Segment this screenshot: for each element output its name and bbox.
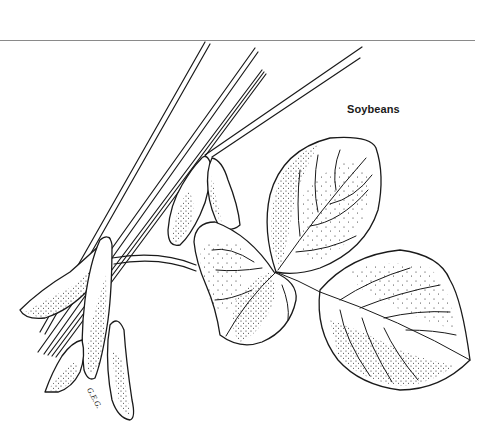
header-rule bbox=[0, 40, 475, 41]
leaves bbox=[194, 137, 470, 390]
illustration-title: Soybeans bbox=[347, 103, 400, 115]
illustration-canvas: Soybeans G.E.G. bbox=[0, 0, 497, 446]
soybean-drawing bbox=[0, 0, 497, 446]
